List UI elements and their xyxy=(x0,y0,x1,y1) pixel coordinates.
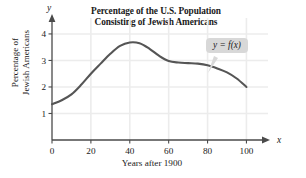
svg-text:4: 4 xyxy=(41,29,46,39)
function-annotation: y = f(x) xyxy=(206,38,248,53)
callout-pointer xyxy=(208,56,218,73)
y-axis-name: y xyxy=(46,3,52,13)
svg-text:0: 0 xyxy=(50,146,55,156)
plot-area: 020406080100 1234 x y xyxy=(0,0,306,178)
svg-text:1: 1 xyxy=(41,109,46,119)
svg-text:20: 20 xyxy=(86,146,96,156)
y-axis-arrow xyxy=(49,14,56,22)
svg-text:60: 60 xyxy=(164,146,174,156)
x-tick-labels: 020406080100 xyxy=(50,140,254,156)
svg-text:100: 100 xyxy=(240,146,254,156)
svg-text:80: 80 xyxy=(203,146,213,156)
chart-figure: Percentage of the U.S. Population Consis… xyxy=(0,0,306,178)
svg-text:40: 40 xyxy=(125,146,135,156)
svg-text:3: 3 xyxy=(41,56,46,66)
svg-text:2: 2 xyxy=(41,82,46,92)
y-tick-labels: 1234 xyxy=(41,29,52,119)
x-axis-arrow xyxy=(262,137,270,144)
gridlines xyxy=(52,18,268,140)
x-axis-name: x xyxy=(276,135,282,145)
